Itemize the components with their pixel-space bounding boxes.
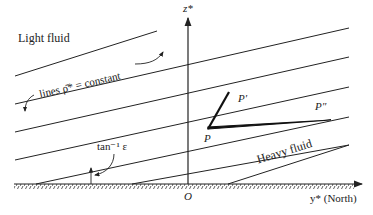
z-axis-label: z* [183, 2, 193, 14]
point-pdoubleprime-label: P″ [315, 100, 326, 112]
angle-label: tan⁻¹ ε [97, 140, 127, 153]
point-p-label: P [204, 132, 211, 144]
diagram: Light fluid lines ρ̄* = constant tan⁻¹ ε… [0, 0, 373, 215]
light-fluid-label: Light fluid [18, 31, 70, 46]
isopycnal-arrow-right [135, 52, 163, 64]
angle-arrow-curve [95, 154, 114, 175]
ground-hatch [14, 184, 354, 189]
origin-label: O [184, 190, 192, 202]
isopycnal-lines [15, 28, 349, 184]
isopycnal-arrow-left [25, 95, 34, 111]
point-pprime-label: P′ [238, 92, 247, 104]
segment-p-pprime [208, 92, 229, 129]
y-axis-label: y* (North) [310, 192, 357, 204]
